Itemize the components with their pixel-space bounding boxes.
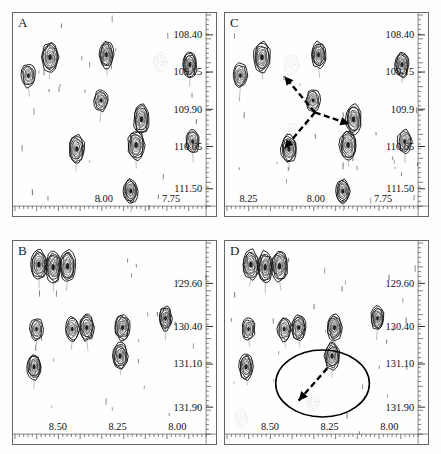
highlight-ellipse bbox=[276, 350, 370, 417]
noe-arrow-upleft-head bbox=[284, 76, 293, 86]
y-tick-label: 108.40 bbox=[386, 29, 415, 40]
x-tick-label: 8.25 bbox=[321, 421, 339, 432]
contour-peaks bbox=[27, 249, 173, 389]
y-tick-label: 130.40 bbox=[386, 321, 415, 332]
y-tick-label: 131.10 bbox=[386, 358, 415, 369]
y-tick-label: 109.90 bbox=[174, 104, 203, 115]
panel-a-letter: A bbox=[18, 15, 28, 31]
x-tick-label: 8.00 bbox=[380, 421, 398, 432]
y-tick-label: 129.60 bbox=[386, 278, 415, 289]
contour-peaks bbox=[235, 249, 384, 427]
contour-peaks bbox=[21, 41, 199, 212]
panel-b: B 129.60130.40131.10131.908.508.258.00 bbox=[12, 240, 217, 445]
panel-d: D 129.60130.40131.10131.908.508.258.00 bbox=[224, 240, 429, 445]
axes-layer: 108.40109.15109.90110.65111.508.007.75 bbox=[13, 13, 216, 216]
y-tick-label: 130.40 bbox=[174, 321, 203, 332]
panel-a-spectrum: 108.40109.15109.90110.65111.508.007.75 bbox=[13, 13, 216, 216]
x-tick-label: 8.00 bbox=[307, 193, 325, 204]
x-tick-label: 7.75 bbox=[162, 193, 180, 204]
panel-c-letter: C bbox=[230, 15, 239, 31]
y-tick-label: 109.9 bbox=[391, 104, 414, 115]
panel-a: A 108.40109.15109.90110.65111.508.007.75 bbox=[12, 12, 217, 217]
nmr-figure: A 108.40109.15109.90110.65111.508.007.75… bbox=[0, 0, 441, 454]
panel-d-letter: D bbox=[230, 243, 240, 259]
x-tick-label: 8.50 bbox=[261, 421, 279, 432]
panel-b-spectrum: 129.60130.40131.10131.908.508.258.00 bbox=[13, 241, 216, 444]
x-tick-label: 8.25 bbox=[109, 421, 127, 432]
y-tick-label: 109.15 bbox=[174, 66, 203, 77]
x-tick-label: 8.00 bbox=[168, 421, 186, 432]
x-tick-label: 8.50 bbox=[49, 421, 67, 432]
annotation-layer bbox=[284, 76, 349, 149]
y-tick-label: 109.15 bbox=[386, 66, 415, 77]
x-tick-label: 8.00 bbox=[95, 193, 113, 204]
y-tick-label: 110.65 bbox=[386, 141, 414, 152]
annotation-layer bbox=[276, 350, 370, 417]
axes-layer: 108.40109.15109.9110.65111.508.258.007.7… bbox=[225, 13, 428, 216]
panel-c: C 108.40109.15109.9110.65111.508.258.007… bbox=[224, 12, 429, 217]
y-tick-label: 110.65 bbox=[174, 141, 202, 152]
x-tick-label: 8.25 bbox=[239, 193, 257, 204]
y-tick-label: 129.60 bbox=[174, 278, 203, 289]
panel-b-letter: B bbox=[18, 243, 27, 259]
y-tick-label: 131.90 bbox=[386, 402, 415, 413]
panel-c-spectrum: 108.40109.15109.9110.65111.508.258.007.7… bbox=[225, 13, 428, 216]
panel-d-spectrum: 129.60130.40131.10131.908.508.258.00 bbox=[225, 241, 428, 444]
y-tick-label: 131.10 bbox=[174, 358, 203, 369]
x-tick-label: 7.75 bbox=[374, 193, 392, 204]
y-tick-label: 131.90 bbox=[174, 402, 203, 413]
y-tick-label: 108.40 bbox=[174, 29, 203, 40]
